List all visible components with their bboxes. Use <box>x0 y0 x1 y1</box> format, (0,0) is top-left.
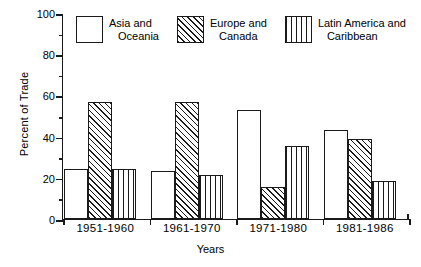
legend-swatch-vert <box>285 16 312 43</box>
legend-label-line1: Asia and <box>109 17 152 29</box>
legend-label: Latin America andCaribbean <box>318 16 406 42</box>
y-axis-tick-label: 0 <box>25 215 55 226</box>
bar-vert-1951-1960 <box>112 169 136 219</box>
y-axis-tick-label: 40 <box>25 132 55 143</box>
y-axis-minor-tick <box>59 76 64 78</box>
y-axis-title: Percent of Trade <box>18 44 30 184</box>
bar-plain-1981-1986 <box>324 130 348 219</box>
legend-label-line2: Oceania <box>109 30 159 43</box>
legend-item-hatch: Europe andCanada <box>177 16 267 43</box>
legend-label: Europe andCanada <box>210 16 267 42</box>
y-axis-tick-label: 60 <box>25 91 55 102</box>
x-axis-tick-label: 1981-1986 <box>322 222 409 234</box>
y-axis-minor-tick <box>59 35 64 37</box>
y-axis-tick-label: 100 <box>25 9 55 20</box>
x-axis-right-end <box>407 214 409 220</box>
y-axis-tick-label: 20 <box>25 173 55 184</box>
bar-plain-1971-1980 <box>237 110 261 219</box>
bar-hatch-1971-1980 <box>261 187 285 219</box>
x-axis-tick-label: 1951-1960 <box>62 222 149 234</box>
legend-item-plain: Asia andOceania <box>76 16 159 43</box>
y-axis-tick-label: 80 <box>25 50 55 61</box>
bar-vert-1981-1986 <box>372 181 396 219</box>
bar-chart: Percent of Trade 020406080100 Asia andOc… <box>0 0 421 267</box>
legend-swatch-plain <box>76 16 103 43</box>
bar-plain-1961-1970 <box>151 171 175 219</box>
y-axis-minor-tick <box>59 199 64 201</box>
bar-hatch-1981-1986 <box>348 139 372 219</box>
bar-hatch-1961-1970 <box>175 102 199 219</box>
legend-label: Asia andOceania <box>109 16 159 42</box>
y-axis-minor-tick <box>59 117 64 119</box>
y-axis-tick <box>56 14 63 16</box>
legend-label-line1: Latin America and <box>318 17 406 29</box>
chart-legend: Asia andOceaniaEurope andCanadaLatin Ame… <box>76 16 406 43</box>
bar-vert-1961-1970 <box>199 175 223 219</box>
legend-label-line2: Caribbean <box>318 30 406 43</box>
x-axis-tick <box>409 219 411 225</box>
y-axis-tick <box>56 96 63 98</box>
bar-vert-1971-1980 <box>285 146 309 219</box>
bar-hatch-1951-1960 <box>88 102 112 219</box>
bar-plain-1951-1960 <box>64 169 88 219</box>
plot-area: 020406080100 <box>62 14 408 220</box>
legend-item-vert: Latin America andCaribbean <box>285 16 406 43</box>
y-axis-minor-tick <box>59 158 64 160</box>
legend-label-line2: Canada <box>210 30 267 43</box>
y-axis-tick <box>56 179 63 181</box>
y-axis-tick <box>56 55 63 57</box>
legend-swatch-hatch <box>177 16 204 43</box>
y-axis-tick <box>56 138 63 140</box>
x-axis-tick-label: 1961-1970 <box>149 222 236 234</box>
x-axis-tick-label: 1971-1980 <box>235 222 322 234</box>
legend-label-line1: Europe and <box>210 17 267 29</box>
x-axis-title: Years <box>0 243 421 255</box>
